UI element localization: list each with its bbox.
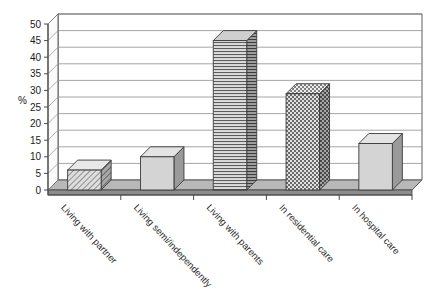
y-axis-tick-label: 10 [30,151,42,162]
bar-front-face [213,41,246,190]
bar-column [68,160,111,190]
bar-chart: 05101520253035404550 Living with partner… [0,0,432,308]
bar-front-face [68,170,101,190]
bar-front-face [286,94,319,190]
bar-column [213,31,256,190]
y-axis-tick-label: 20 [30,118,42,129]
floor-front [48,190,412,195]
bar-front-face [140,157,173,190]
y-axis-title: % [18,95,27,106]
y-axis-tick-label: 40 [30,52,42,63]
y-axis-tick-label: 5 [35,168,41,179]
y-axis-tick-label: 50 [30,19,42,30]
bar-side-face [320,84,330,190]
bar-column [359,134,402,190]
y-axis-tick-label: 45 [30,35,42,46]
y-axis-tick-label: 35 [30,68,42,79]
y-axis-tick-label: 15 [30,135,42,146]
bar-side-face [247,31,257,190]
bar-column [286,84,329,190]
y-axis-tick-label: 25 [30,102,42,113]
bar-column [140,147,183,190]
chart-canvas: 05101520253035404550 Living with partner… [0,0,432,308]
bar-front-face [359,144,392,190]
y-axis-tick-label: 30 [30,85,42,96]
y-axis-tick-label: 0 [35,185,41,196]
